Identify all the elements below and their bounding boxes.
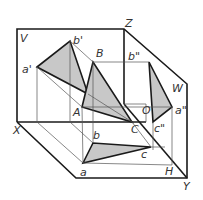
label-c-top: c [141,148,147,161]
front-projection-triangle [37,41,88,94]
diagram-canvas: V W H X Y Z O A B C a' b' a" b" c" a b c [0,0,203,200]
label-a-double-prime: a" [175,104,187,117]
label-b-double-prime: b" [128,50,140,63]
label-origin: O [142,104,151,117]
label-h-plane: H [165,165,173,178]
projection-diagram: V W H X Y Z O A B C a' b' a" b" c" a b c [0,0,203,200]
label-b-prime: b' [73,34,83,47]
label-point-a-space: A [72,106,81,119]
label-z-axis: Z [124,17,133,30]
side-projection-triangle [149,62,172,122]
label-b-top: b [93,129,100,142]
label-a-prime: a' [22,63,32,76]
label-y-axis: Y [183,180,191,193]
label-c-double-prime: c" [154,122,165,135]
label-a-top: a [80,166,87,179]
label-x-axis: X [12,124,21,137]
label-v-plane: V [20,32,29,45]
label-point-c-space: C [131,123,139,136]
label-w-plane: W [172,82,184,95]
label-point-b-space: B [96,47,104,60]
